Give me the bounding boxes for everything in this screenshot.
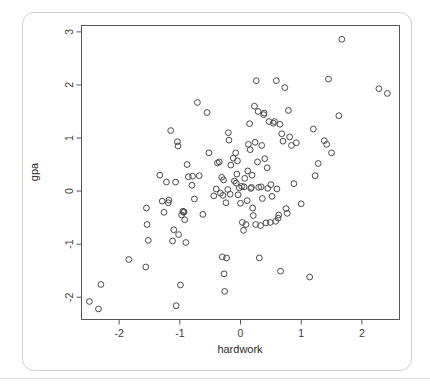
data-point	[326, 76, 332, 82]
data-point	[265, 186, 271, 192]
data-point	[280, 138, 286, 144]
data-point	[256, 255, 262, 261]
data-point	[195, 100, 201, 106]
data-point	[223, 200, 229, 206]
data-point	[173, 303, 179, 309]
data-point	[145, 238, 151, 244]
data-point	[279, 131, 285, 137]
data-point	[312, 173, 318, 179]
data-point	[164, 179, 170, 185]
data-point	[86, 299, 92, 305]
data-point	[238, 200, 244, 206]
data-points-layer	[86, 36, 390, 311]
data-point	[269, 193, 275, 199]
data-point	[157, 172, 163, 178]
data-point	[253, 78, 259, 84]
data-point	[98, 282, 104, 288]
data-point	[235, 158, 241, 164]
data-point	[262, 156, 268, 162]
data-point	[216, 159, 222, 165]
plot-frame	[82, 26, 400, 320]
x-tick-label: -2	[114, 327, 123, 339]
y-tick-label: 3	[64, 29, 76, 35]
y-tick-label: 0	[64, 188, 76, 194]
data-point	[242, 175, 248, 181]
data-point	[273, 78, 279, 84]
data-point	[159, 198, 165, 204]
data-point	[268, 182, 274, 188]
data-point	[144, 222, 150, 228]
data-point	[200, 212, 206, 218]
data-point	[252, 139, 258, 145]
y-axis-ticks: -2-10123	[64, 29, 82, 302]
scatter-plot: -2-10123 -2-1012 hardwork gpa	[0, 0, 430, 390]
screenshot-root: -2-10123 -2-1012 hardwork gpa	[0, 0, 430, 390]
data-point	[247, 147, 253, 153]
data-point	[173, 179, 179, 185]
data-point	[255, 109, 261, 115]
x-axis-title: hardwork	[217, 343, 263, 355]
y-tick-label: -2	[64, 292, 76, 301]
x-axis-ticks: -2-1012	[114, 320, 364, 339]
data-point	[206, 150, 212, 156]
data-point	[225, 130, 231, 136]
data-point	[315, 161, 321, 167]
data-point	[168, 128, 174, 134]
y-tick-label: -1	[64, 239, 76, 248]
data-point	[143, 264, 149, 270]
data-point	[211, 193, 217, 199]
data-point	[252, 103, 258, 109]
data-point	[191, 196, 197, 202]
data-point	[384, 91, 390, 97]
data-point	[176, 232, 182, 238]
data-point	[339, 36, 345, 42]
data-point	[222, 288, 228, 294]
data-point	[249, 172, 255, 178]
data-point	[255, 159, 261, 165]
data-point	[184, 162, 190, 168]
data-point	[227, 191, 233, 197]
data-point	[376, 86, 382, 92]
data-point	[196, 173, 202, 179]
data-point	[183, 240, 189, 246]
data-point	[293, 140, 299, 146]
data-point	[272, 119, 278, 125]
data-point	[282, 85, 288, 91]
data-point	[259, 196, 265, 202]
data-point	[250, 213, 256, 219]
data-point	[267, 219, 273, 225]
data-point	[310, 126, 316, 132]
x-tick-label: 2	[359, 327, 365, 339]
data-point	[96, 306, 102, 312]
data-point	[277, 121, 283, 127]
data-point	[298, 201, 304, 207]
data-point	[190, 173, 196, 179]
data-point	[221, 271, 227, 277]
data-point	[144, 205, 150, 211]
x-tick-label: 0	[238, 327, 244, 339]
data-point	[259, 143, 265, 149]
y-tick-label: 1	[64, 135, 76, 141]
data-point	[307, 274, 313, 280]
y-tick-label: 2	[64, 82, 76, 88]
data-point	[189, 182, 195, 188]
x-tick-label: -1	[175, 327, 184, 339]
x-tick-label: 1	[298, 327, 304, 339]
data-point	[178, 282, 184, 288]
data-point	[170, 238, 176, 244]
data-point	[291, 181, 297, 187]
data-point	[336, 113, 342, 119]
data-point	[126, 257, 132, 263]
data-point	[241, 227, 247, 233]
data-point	[250, 205, 256, 211]
data-point	[247, 121, 253, 127]
data-point	[182, 217, 188, 223]
data-point	[171, 227, 177, 233]
data-point	[286, 108, 292, 114]
data-point	[274, 186, 280, 192]
data-point	[175, 143, 181, 149]
data-point	[161, 209, 167, 215]
data-point	[264, 165, 270, 171]
data-point	[226, 137, 232, 143]
data-point	[329, 150, 335, 156]
